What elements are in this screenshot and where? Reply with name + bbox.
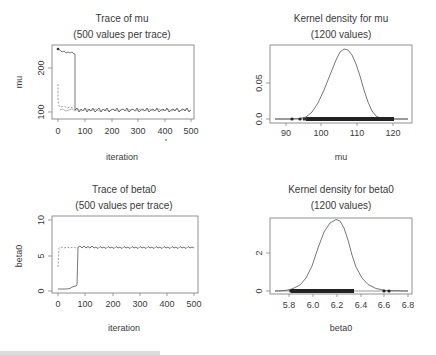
panel-title: Trace of beta0 bbox=[92, 184, 157, 195]
x-tick-label: 200 bbox=[104, 126, 119, 136]
density-curve bbox=[275, 220, 408, 292]
y-tick-label: 0 bbox=[36, 288, 46, 293]
panel-title: Trace of mu bbox=[96, 13, 149, 24]
x-axis-label: iteration bbox=[106, 152, 138, 162]
x-tick-label: 120 bbox=[385, 128, 400, 138]
rug-outlier bbox=[289, 289, 293, 293]
rug-marks-edge bbox=[303, 118, 307, 121]
y-tick-label: 5 bbox=[36, 253, 46, 258]
x-tick-label: 100 bbox=[313, 128, 328, 138]
x-tick-label: 100 bbox=[77, 299, 92, 309]
panel-trace-beta0: Trace of beta0 (500 values per trace) 0 … bbox=[14, 184, 202, 333]
x-tick-label: 500 bbox=[183, 126, 198, 136]
plot-frame bbox=[52, 216, 198, 293]
rug-marks bbox=[291, 289, 354, 293]
x-tick-label: 200 bbox=[105, 299, 120, 309]
y-tick-label: 100 bbox=[36, 104, 46, 119]
x-tick-label: 6.0 bbox=[307, 300, 320, 310]
plot-frame bbox=[270, 218, 412, 294]
panel-subtitle: (1200 values) bbox=[311, 29, 372, 40]
panel-subtitle: (500 values per trace) bbox=[73, 29, 170, 40]
x-tick-label: 500 bbox=[186, 299, 201, 309]
y-tick-label: 0.05 bbox=[254, 74, 264, 92]
plot-frame bbox=[52, 45, 194, 119]
panel-density-beta0: Kernel density for beta0 (1200 values) 0… bbox=[254, 184, 414, 333]
rug-outlier bbox=[298, 117, 301, 120]
panel-subtitle: (1200 values) bbox=[311, 200, 372, 211]
y-axis bbox=[48, 68, 52, 112]
x-tick-label: 400 bbox=[157, 126, 172, 136]
x-tick-label: 0 bbox=[55, 299, 60, 309]
x-tick-label: 6.2 bbox=[331, 300, 344, 310]
panel-density-mu: Kernel density for mu (1200 values) 0.0 … bbox=[254, 13, 412, 162]
x-tick-label: 100 bbox=[77, 126, 92, 136]
y-tick-label: 10 bbox=[36, 215, 46, 225]
rug-outlier bbox=[290, 117, 293, 120]
x-tick-label: 400 bbox=[159, 299, 174, 309]
x-axis bbox=[286, 123, 393, 126]
y-axis-label: mu bbox=[14, 76, 24, 89]
trace-line-chain1 bbox=[58, 49, 75, 110]
y-tick-label: 200 bbox=[36, 60, 46, 75]
rug-marks bbox=[306, 117, 394, 121]
trace-line-chain2 bbox=[58, 84, 73, 108]
y-axis-label: beta0 bbox=[14, 245, 24, 268]
x-tick-label: 90 bbox=[281, 128, 291, 138]
x-axis-label: mu bbox=[335, 152, 348, 162]
stray-mark: * bbox=[165, 138, 168, 144]
y-axis bbox=[266, 83, 270, 119]
x-tick-label: 6.6 bbox=[378, 300, 391, 310]
x-axis-label: iteration bbox=[108, 323, 140, 333]
x-axis bbox=[58, 119, 191, 122]
x-axis bbox=[289, 294, 408, 297]
x-axis-label: beta0 bbox=[330, 323, 353, 333]
y-tick-label: 0.0 bbox=[254, 113, 264, 126]
y-axis bbox=[48, 220, 52, 291]
y-tick-label: 2 bbox=[254, 250, 264, 255]
rug-outlier bbox=[388, 117, 391, 120]
x-axis bbox=[58, 293, 194, 296]
y-tick-label: 0 bbox=[254, 288, 264, 293]
panel-subtitle: (500 values per trace) bbox=[75, 200, 172, 211]
panel-trace-mu: Trace of mu (500 values per trace) 100 2… bbox=[14, 13, 199, 162]
rug-outlier bbox=[382, 289, 385, 292]
x-tick-label: 0 bbox=[55, 126, 60, 136]
x-tick-label: 6.4 bbox=[355, 300, 368, 310]
trace-line-chain2 bbox=[58, 247, 76, 267]
trace-line-chain1 bbox=[58, 246, 80, 289]
x-tick-label: 6.8 bbox=[402, 300, 415, 310]
y-axis bbox=[266, 253, 270, 291]
x-tick-label: 5.8 bbox=[283, 300, 296, 310]
plot-frame bbox=[270, 45, 412, 123]
density-curve bbox=[275, 49, 408, 119]
figure: Trace of mu (500 values per trace) 100 2… bbox=[0, 0, 436, 355]
panel-title: Kernel density for beta0 bbox=[288, 184, 394, 195]
rug-outlier bbox=[387, 289, 390, 292]
x-tick-label: 110 bbox=[350, 128, 364, 138]
clipped-caption-fragment bbox=[0, 351, 160, 355]
x-tick-label: 300 bbox=[130, 126, 145, 136]
x-tick-label: 300 bbox=[132, 299, 147, 309]
trace-noise-band bbox=[80, 246, 194, 249]
panel-title: Kernel density for mu bbox=[294, 13, 389, 24]
